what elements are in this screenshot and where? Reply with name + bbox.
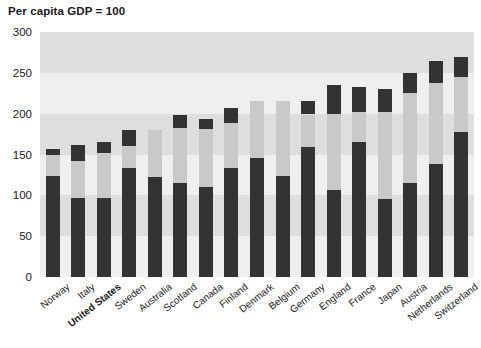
bar-japan[interactable] <box>378 32 392 277</box>
segment-top <box>429 61 443 84</box>
y-axis: 050100150200250300 <box>0 0 36 348</box>
segment-top <box>97 142 111 153</box>
segment-bottom <box>173 183 187 277</box>
segment-middle <box>301 115 315 148</box>
segment-top <box>378 89 392 112</box>
segment-middle <box>173 128 187 184</box>
segment-top <box>301 101 315 114</box>
segment-bottom <box>378 199 392 277</box>
segment-bottom <box>429 164 443 277</box>
segment-bottom <box>148 177 162 277</box>
segment-bottom <box>46 176 60 277</box>
segment-middle <box>122 146 136 167</box>
segment-top <box>122 130 136 146</box>
segment-middle <box>327 114 341 190</box>
bar-canada[interactable] <box>199 32 213 277</box>
segment-bottom <box>199 187 213 277</box>
bar-finland[interactable] <box>224 32 238 277</box>
bar-australia[interactable] <box>148 32 162 277</box>
bar-italy[interactable] <box>71 32 85 277</box>
bar-france[interactable] <box>352 32 366 277</box>
segment-bottom <box>97 198 111 277</box>
y-axis-tick-label: 200 <box>13 108 32 120</box>
chart-container: Per capita GDP = 100 050100150200250300 … <box>0 0 481 348</box>
segment-top <box>46 149 60 155</box>
segment-top <box>403 73 417 93</box>
segment-middle <box>71 161 85 198</box>
x-axis-label-france: France <box>347 281 378 309</box>
segment-bottom <box>327 190 341 277</box>
segment-middle <box>224 123 238 168</box>
segment-middle <box>46 155 60 176</box>
segment-bottom <box>403 183 417 277</box>
segment-top <box>327 85 341 114</box>
segment-middle <box>352 112 366 142</box>
segment-top <box>224 108 238 123</box>
y-axis-tick-label: 0 <box>26 271 32 283</box>
segment-bottom <box>352 142 366 277</box>
segment-top <box>454 57 468 77</box>
bar-united-states[interactable] <box>97 32 111 277</box>
segment-middle <box>148 130 162 177</box>
segment-middle <box>378 112 392 199</box>
segment-bottom <box>71 198 85 277</box>
y-axis-tick-label: 250 <box>13 67 32 79</box>
bar-austria[interactable] <box>403 32 417 277</box>
bar-germany[interactable] <box>301 32 315 277</box>
segment-middle <box>454 77 468 132</box>
y-axis-tick-label: 150 <box>13 149 32 161</box>
segment-middle <box>276 101 290 175</box>
bar-scotland[interactable] <box>173 32 187 277</box>
segment-bottom <box>454 132 468 277</box>
segment-bottom <box>224 168 238 277</box>
segment-middle <box>403 93 417 183</box>
segment-middle <box>199 129 213 187</box>
bar-switzerland[interactable] <box>454 32 468 277</box>
bar-denmark[interactable] <box>250 32 264 277</box>
segment-middle <box>250 101 264 157</box>
y-axis-tick-label: 100 <box>13 189 32 201</box>
segment-bottom <box>301 147 315 277</box>
y-axis-tick-label: 50 <box>19 230 32 242</box>
segment-top <box>71 145 85 161</box>
bar-sweden[interactable] <box>122 32 136 277</box>
x-axis: NorwayItalyUnited StatesSwedenAustraliaS… <box>40 277 474 348</box>
x-axis-label-norway: Norway <box>38 281 71 311</box>
plot-area <box>40 32 474 277</box>
y-axis-tick-label: 300 <box>13 26 32 38</box>
segment-top <box>173 115 187 127</box>
bar-belgium[interactable] <box>276 32 290 277</box>
bar-norway[interactable] <box>46 32 60 277</box>
segment-middle <box>97 153 111 198</box>
bar-netherlands[interactable] <box>429 32 443 277</box>
segment-bottom <box>122 168 136 277</box>
bar-england[interactable] <box>327 32 341 277</box>
segment-top <box>199 119 213 130</box>
segment-top <box>352 87 366 112</box>
segment-bottom <box>276 176 290 277</box>
segment-middle <box>429 83 443 164</box>
segment-bottom <box>250 158 264 277</box>
